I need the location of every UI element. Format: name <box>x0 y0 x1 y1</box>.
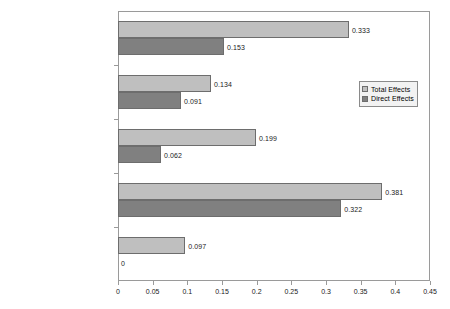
y-axis-tick <box>114 173 118 174</box>
bar-value-label: 0.322 <box>341 205 362 212</box>
x-axis-tick <box>326 281 327 285</box>
horizontal-bar-chart: Total Issue Effects0.3330.153Issue Prior… <box>0 0 450 309</box>
x-axis-tick <box>222 281 223 285</box>
bar-row: 0.333 <box>118 21 430 38</box>
x-axis-tick <box>361 281 362 285</box>
legend-item-total-effects: Total Effects <box>362 85 414 94</box>
bar-direct-effects <box>118 38 224 55</box>
bar-total-effects <box>118 237 185 254</box>
x-axis-tick <box>187 281 188 285</box>
bar-value-label: 0.333 <box>349 26 370 33</box>
bar-total-effects <box>118 21 349 38</box>
x-axis-tick-label: 0.45 <box>423 288 437 295</box>
bar-row: 0.381 <box>118 183 430 200</box>
x-axis-tick-label: 0.4 <box>390 288 400 295</box>
x-axis-tick-label: 0.2 <box>252 288 262 295</box>
x-axis-tick <box>430 281 431 285</box>
x-axis-tick-label: 0 <box>116 288 120 295</box>
legend-item-direct-effects: Direct Effects <box>362 94 414 103</box>
y-axis-tick <box>114 227 118 228</box>
bar-row: 0.199 <box>118 129 430 146</box>
bar-direct-effects <box>118 146 161 163</box>
chart-legend: Total Effects Direct Effects <box>359 81 418 107</box>
bar-value-label: 0.153 <box>224 43 245 50</box>
x-axis-tick-label: 0.1 <box>182 288 192 295</box>
bar-value-label: 0.381 <box>382 188 403 195</box>
bar-value-label: 0.091 <box>181 97 202 104</box>
bar-value-label: 0 <box>118 259 125 266</box>
legend-label-direct-effects: Direct Effects <box>371 95 414 102</box>
bar-direct-effects <box>118 92 181 109</box>
bar-direct-effects <box>118 200 341 217</box>
bar-value-label: 0.097 <box>185 242 206 249</box>
x-axis-tick-label: 0.05 <box>146 288 160 295</box>
legend-swatch-direct-effects <box>362 96 368 102</box>
bar-total-effects <box>118 75 211 92</box>
x-axis-tick-label: 0.35 <box>354 288 368 295</box>
x-axis-tick-label: 0.3 <box>321 288 331 295</box>
x-axis-tick <box>153 281 154 285</box>
bar-value-label: 0.062 <box>161 151 182 158</box>
x-axis-tick <box>291 281 292 285</box>
y-axis-tick <box>114 65 118 66</box>
legend-label-total-effects: Total Effects <box>371 86 410 93</box>
bar-row: 0.322 <box>118 200 430 217</box>
x-axis-tick-label: 0.15 <box>215 288 229 295</box>
bar-total-effects <box>118 183 382 200</box>
legend-swatch-total-effects <box>362 86 368 92</box>
bar-row: 0 <box>118 254 430 271</box>
x-axis-tick <box>118 281 119 285</box>
x-axis-tick <box>257 281 258 285</box>
x-axis-tick <box>395 281 396 285</box>
x-axis-tick-label: 0.25 <box>285 288 299 295</box>
bar-row: 0.062 <box>118 146 430 163</box>
bar-row: 0.153 <box>118 38 430 55</box>
bar-value-label: 0.199 <box>256 134 277 141</box>
bar-total-effects <box>118 129 256 146</box>
y-axis-tick <box>114 119 118 120</box>
bar-row: 0.097 <box>118 237 430 254</box>
bar-value-label: 0.134 <box>211 80 232 87</box>
